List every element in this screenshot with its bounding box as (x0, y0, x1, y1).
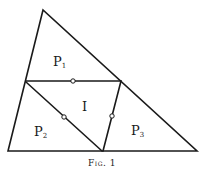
midpoint-marker-right (110, 114, 114, 118)
region-label-p3: P3 (131, 124, 144, 139)
figure-caption: Fig. 1 (0, 158, 204, 168)
region-label-i: I (82, 100, 87, 113)
midpoint-marker-diagonal (62, 115, 66, 119)
triangle-diagram (0, 0, 204, 173)
region-label-p1: P1 (53, 55, 66, 70)
region-label-p2: P2 (34, 125, 47, 140)
midpoint-marker-top (71, 79, 75, 83)
